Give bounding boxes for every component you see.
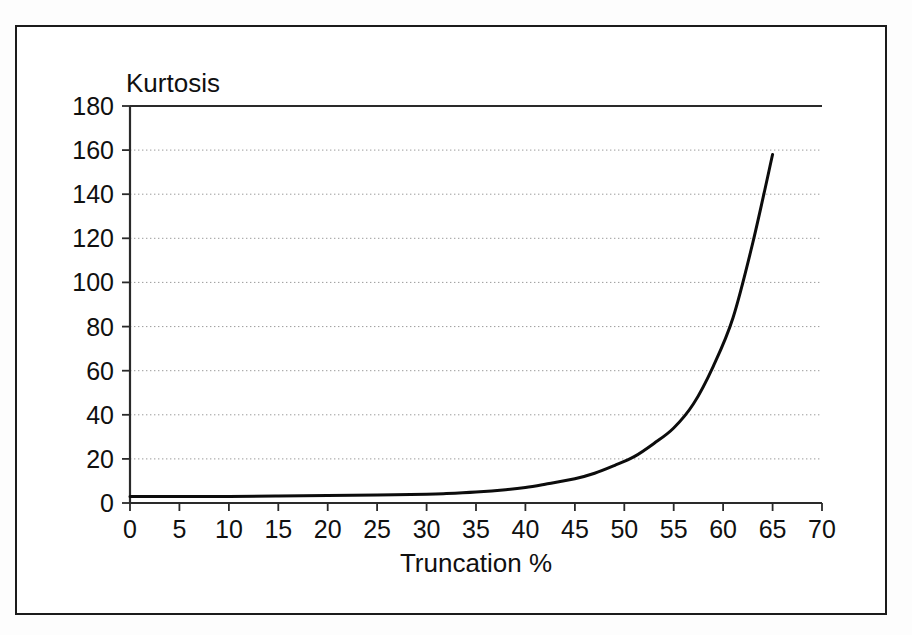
- x-tick-label-30: 30: [413, 515, 441, 543]
- x-tick-label-15: 15: [264, 515, 292, 543]
- x-tick-label-50: 50: [610, 515, 638, 543]
- x-tick-label-25: 25: [363, 515, 391, 543]
- y-tick-label-160: 160: [72, 136, 114, 164]
- x-tick-labels: 0 5 10 15 20 25 30 35 40 45 50 55 60 65 …: [123, 515, 836, 543]
- x-tick-label-40: 40: [511, 515, 539, 543]
- gridlines: [130, 150, 822, 459]
- x-tick-label-0: 0: [123, 515, 137, 543]
- x-tick-label-60: 60: [709, 515, 737, 543]
- kurtosis-curve: [130, 155, 773, 497]
- x-tick-label-35: 35: [462, 515, 490, 543]
- y-tick-label-140: 140: [72, 180, 114, 208]
- x-tick-label-5: 5: [172, 515, 186, 543]
- x-tick-label-20: 20: [314, 515, 342, 543]
- y-tick-label-0: 0: [100, 489, 114, 517]
- x-tick-label-65: 65: [759, 515, 787, 543]
- figure-page: Kurtosis: [0, 0, 912, 635]
- y-tick-label-180: 180: [72, 92, 114, 120]
- y-tick-label-80: 80: [86, 313, 114, 341]
- y-tick-label-120: 120: [72, 224, 114, 252]
- y-tick-label-20: 20: [86, 445, 114, 473]
- kurtosis-truncation-chart: Kurtosis: [0, 0, 912, 635]
- y-axis-title: Kurtosis: [126, 68, 220, 98]
- y-tick-labels: 180 160 140 120 100 80 60 40 20 0: [72, 92, 114, 517]
- x-tick-label-45: 45: [561, 515, 589, 543]
- x-tick-label-55: 55: [660, 515, 688, 543]
- chart-svg: Kurtosis: [0, 0, 912, 635]
- x-tick-marks: [130, 503, 822, 511]
- y-tick-label-40: 40: [86, 401, 114, 429]
- x-tick-label-10: 10: [215, 515, 243, 543]
- y-tick-label-100: 100: [72, 268, 114, 296]
- x-axis-title: Truncation %: [400, 548, 552, 578]
- y-tick-label-60: 60: [86, 357, 114, 385]
- y-tick-marks: [122, 106, 130, 503]
- x-tick-label-70: 70: [808, 515, 836, 543]
